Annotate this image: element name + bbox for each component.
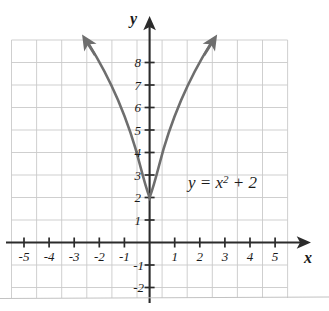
svg-text:y = x2 + 2: y = x2 + 2 (186, 173, 258, 192)
x-tick-label: -1 (119, 249, 130, 264)
y-tick-label: 7 (135, 78, 142, 93)
x-tick-label: 3 (221, 249, 229, 264)
x-tick-label: 5 (272, 249, 279, 264)
x-tick-label: 2 (197, 249, 204, 264)
y-tick-label: -2 (133, 280, 144, 295)
y-tick-label: 5 (135, 123, 142, 138)
x-tick-label: -4 (44, 249, 55, 264)
y-tick-label: 2 (135, 190, 142, 205)
x-tick-label: -2 (94, 249, 105, 264)
x-tick-label: -3 (69, 249, 80, 264)
y-tick-label: 1 (135, 213, 142, 228)
y-tick-label: 8 (135, 55, 142, 70)
x-axis-label: x (303, 249, 312, 266)
figure-background (0, 0, 329, 311)
y-axis-label: y (128, 10, 138, 28)
equation-main: y = x (186, 173, 224, 192)
x-tick-label: -5 (19, 249, 30, 264)
graph-figure: -5 -4 -3 -2 -1 1 2 3 4 5 8 7 6 5 4 3 2 1… (0, 0, 329, 311)
x-tick-label: 4 (247, 249, 254, 264)
y-tick-label: 3 (134, 168, 142, 183)
y-tick-label: 6 (135, 100, 142, 115)
equation-annotation: y = x2 + 2 (186, 173, 258, 192)
y-tick-label: 4 (135, 145, 142, 160)
x-tick-label: 1 (171, 249, 178, 264)
equation-tail: + 2 (229, 173, 258, 192)
y-tick-label: -1 (133, 258, 144, 273)
